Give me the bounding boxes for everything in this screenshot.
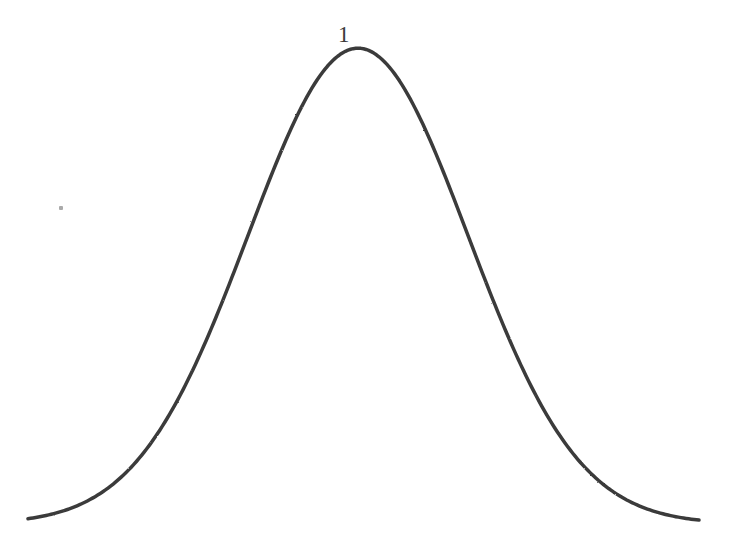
peak-height-label: 1 [338, 23, 350, 46]
bell-curve-figure: 1 [0, 0, 745, 555]
scan-speck-artifact [59, 206, 63, 210]
bell-curve-canvas [0, 0, 745, 555]
gaussian-curve-path [28, 48, 699, 520]
